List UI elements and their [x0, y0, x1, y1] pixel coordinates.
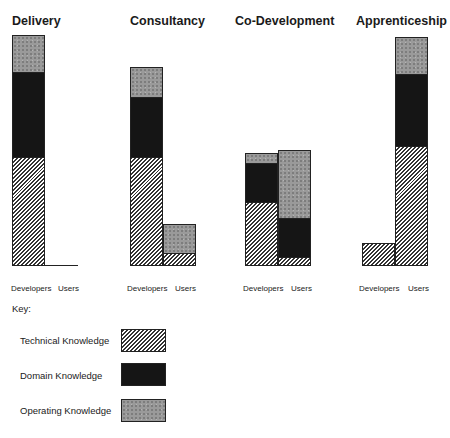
- panel-title-consultancy: Consultancy: [130, 14, 205, 28]
- technical-knowledge-segment: [279, 257, 310, 265]
- legend-swatch-technical: [121, 329, 166, 352]
- legend-label-technical: Technical Knowledge: [20, 335, 109, 346]
- co-development-users-label: Users: [291, 284, 312, 293]
- domain-knowledge-segment: [396, 74, 427, 145]
- domain-knowledge-segment: [13, 72, 44, 157]
- panel-title-co-development: Co-Development: [235, 14, 334, 28]
- apprenticeship-users-label: Users: [408, 284, 429, 293]
- co-development-developers-label: Developers: [243, 284, 283, 293]
- apprenticeship-developers-bar: [362, 243, 395, 266]
- technical-knowledge-segment: [131, 157, 162, 265]
- technical-knowledge-segment: [246, 202, 277, 265]
- legend-swatch-operating: [121, 399, 166, 422]
- domain-knowledge-segment: [246, 163, 277, 202]
- technical-knowledge-segment: [396, 146, 427, 265]
- consultancy-developers-bar: [130, 67, 163, 266]
- operating-knowledge-segment: [13, 36, 44, 72]
- operating-knowledge-segment: [164, 225, 195, 253]
- panel-title-apprenticeship: Apprenticeship: [356, 14, 447, 28]
- consultancy-users-bar: [163, 224, 196, 266]
- delivery-users-baseline: [45, 265, 78, 266]
- legend-label-domain: Domain Knowledge: [20, 370, 102, 381]
- consultancy-developers-label: Developers: [127, 284, 167, 293]
- legend-label-operating: Operating Knowledge: [20, 405, 111, 416]
- legend-title: Key:: [12, 303, 31, 314]
- apprenticeship-users-bar: [395, 37, 428, 266]
- panel-title-delivery: Delivery: [12, 14, 61, 28]
- technical-knowledge-segment: [363, 244, 394, 265]
- domain-knowledge-segment: [131, 97, 162, 157]
- delivery-developers-bar: [12, 35, 45, 266]
- legend-swatch-domain: [121, 363, 166, 386]
- delivery-users-label: Users: [58, 284, 79, 293]
- operating-knowledge-segment: [131, 68, 162, 97]
- operating-knowledge-segment: [246, 154, 277, 163]
- operating-knowledge-segment: [396, 38, 427, 74]
- co-development-users-bar: [278, 150, 311, 266]
- delivery-developers-label: Developers: [11, 284, 51, 293]
- co-development-developers-bar: [245, 153, 278, 266]
- operating-knowledge-segment: [279, 151, 310, 218]
- domain-knowledge-segment: [279, 218, 310, 257]
- consultancy-users-label: Users: [175, 284, 196, 293]
- technical-knowledge-segment: [13, 157, 44, 265]
- apprenticeship-developers-label: Developers: [359, 284, 399, 293]
- technical-knowledge-segment: [164, 253, 195, 265]
